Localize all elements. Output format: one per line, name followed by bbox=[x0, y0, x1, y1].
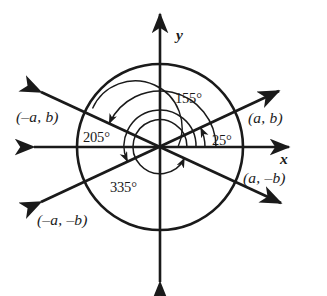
point-label-lower-left: (–a, –b) bbox=[37, 212, 88, 228]
arc-25 bbox=[201, 128, 205, 147]
point-label-lower-right: (a, –b) bbox=[243, 170, 286, 186]
angle-diagram-figure: 155° 25° 205° 335° (–a, b) (a, b) (a, –b… bbox=[0, 0, 327, 296]
angle-label-205: 205° bbox=[83, 130, 110, 145]
angle-label-335: 335° bbox=[110, 180, 137, 195]
diagram-canvas bbox=[0, 0, 327, 296]
point-label-upper-right: (a, b) bbox=[248, 110, 283, 126]
y-axis-label: y bbox=[176, 27, 183, 43]
angle-label-155: 155° bbox=[175, 91, 202, 106]
angle-label-25: 25° bbox=[212, 133, 232, 148]
x-axis-label: x bbox=[280, 151, 288, 167]
point-label-upper-left: (–a, b) bbox=[16, 109, 59, 125]
